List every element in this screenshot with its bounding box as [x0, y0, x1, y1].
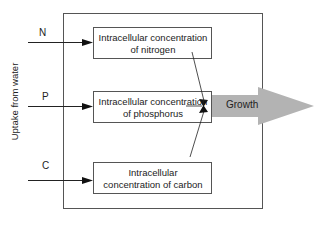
phosphorus-box-text: Intracellular concentration of phosphoru… [94, 92, 212, 123]
phosphorus-box-line1: Intracellular concentration [99, 96, 208, 108]
carbon-box-text: Intracellular concentration of carbon [94, 163, 212, 194]
nitrogen-input-label: N [39, 27, 46, 39]
phosphorus-arrowhead-icon [82, 103, 93, 110]
carbon-arrowhead-icon [82, 177, 93, 184]
nitrogen-box-text: Intracellular concentration of nitrogen [94, 28, 212, 59]
uptake-from-water-label: Uptake from water [9, 62, 20, 142]
nitrogen-arrowhead-icon [82, 39, 93, 46]
carbon-box-line1: Intracellular [128, 167, 177, 179]
nitrogen-box-line2: of nitrogen [131, 44, 176, 56]
growth-arrow [209, 87, 314, 125]
phosphorus-box-line2: of phosphorus [123, 108, 183, 120]
phosphorus-input-label: P [42, 91, 49, 103]
nitrogen-box-line1: Intracellular concentration [99, 32, 208, 44]
carbon-box-line2: concentration of carbon [103, 179, 202, 191]
carbon-input-label: C [42, 160, 49, 172]
growth-label: Growth [226, 99, 258, 110]
